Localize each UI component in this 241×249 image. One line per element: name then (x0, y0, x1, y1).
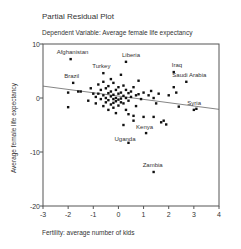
data-point (95, 96, 97, 98)
data-point (140, 98, 142, 100)
data-point (110, 95, 112, 97)
labeled-point (127, 142, 129, 144)
data-point (97, 83, 99, 85)
data-point (107, 99, 109, 101)
data-point (110, 103, 112, 105)
data-point (157, 92, 159, 94)
x-tick-label: -2 (65, 211, 71, 218)
point-label: Iraq (172, 62, 182, 68)
data-point (120, 91, 122, 93)
labeled-point (195, 108, 197, 110)
data-point (67, 106, 69, 108)
labeled-point (102, 72, 104, 74)
y-tick-label: 10 (32, 41, 40, 48)
data-point (112, 98, 114, 100)
labeled-point (152, 171, 154, 173)
data-point (90, 87, 92, 89)
data-point (117, 104, 119, 106)
data-point (137, 93, 139, 95)
data-point (120, 74, 122, 76)
data-point (162, 119, 164, 121)
data-point (160, 121, 162, 123)
point-label: Brazil (64, 73, 79, 79)
x-tick-label: 0 (116, 211, 120, 218)
x-tick-label: -1 (90, 211, 96, 218)
plot-frame (43, 44, 219, 206)
data-point (175, 91, 177, 93)
data-point (115, 100, 117, 102)
data-point (112, 102, 114, 104)
data-point (135, 94, 137, 96)
data-point (155, 102, 157, 104)
data-point (67, 91, 69, 93)
data-point (80, 90, 82, 92)
data-point (107, 85, 109, 87)
data-point (120, 97, 122, 99)
x-tick-label: -3 (40, 211, 46, 218)
data-point (122, 102, 124, 104)
data-point (130, 90, 132, 92)
point-label: Turkey (92, 63, 110, 69)
data-point (173, 86, 175, 88)
labeled-point (145, 132, 147, 134)
x-tick-label: 4 (217, 211, 221, 218)
data-point (110, 78, 112, 80)
data-point (125, 89, 127, 91)
data-point (122, 84, 124, 86)
data-point (132, 119, 134, 121)
data-point (117, 92, 119, 94)
y-tick-label: -10 (30, 149, 40, 156)
data-point (117, 86, 119, 88)
data-point (97, 92, 99, 94)
data-point (77, 90, 79, 92)
data-point (132, 86, 134, 88)
data-point (127, 100, 129, 102)
x-tick-label: 2 (167, 211, 171, 218)
data-point (115, 89, 117, 91)
data-point (117, 98, 119, 100)
data-point (102, 94, 104, 96)
data-point (120, 101, 122, 103)
point-label: Zambia (143, 162, 164, 168)
plot-axes: -3-2-101234-20-10010 (30, 41, 221, 219)
data-point (137, 80, 139, 82)
data-point (135, 105, 137, 107)
data-point (112, 82, 114, 84)
point-label: Afghanistan (57, 49, 89, 55)
data-point (122, 95, 124, 97)
data-point (125, 97, 127, 99)
data-point (105, 97, 107, 99)
point-label: Saudi Arabia (172, 72, 207, 78)
data-point (130, 96, 132, 98)
labeled-point (185, 81, 187, 83)
data-point (142, 116, 144, 118)
labeled-point (72, 82, 74, 84)
data-point (132, 115, 134, 117)
data-point (105, 87, 107, 89)
data-point (102, 81, 104, 83)
data-point (193, 109, 195, 111)
x-tick-label: 3 (192, 211, 196, 218)
point-label: Syria (187, 100, 201, 106)
y-tick-label: -20 (30, 203, 40, 210)
labeled-point (125, 61, 127, 63)
labeled-point (69, 58, 71, 60)
data-point (110, 90, 112, 92)
data-point (168, 94, 170, 96)
data-point (87, 100, 89, 102)
data-point (115, 112, 117, 114)
data-point (107, 109, 109, 111)
scatter-plot: -3-2-101234-20-10010 AfghanistanBrazilTu… (0, 0, 241, 249)
point-label: Liberia (122, 52, 141, 58)
data-point (127, 113, 129, 115)
data-point (112, 107, 114, 109)
data-point (115, 97, 117, 99)
data-point (178, 105, 180, 107)
data-point (150, 90, 152, 92)
data-point (102, 105, 104, 107)
data-point (95, 102, 97, 104)
data-point (152, 97, 154, 99)
data-point (105, 101, 107, 103)
point-label: Kenya (136, 124, 154, 130)
data-point (122, 124, 124, 126)
